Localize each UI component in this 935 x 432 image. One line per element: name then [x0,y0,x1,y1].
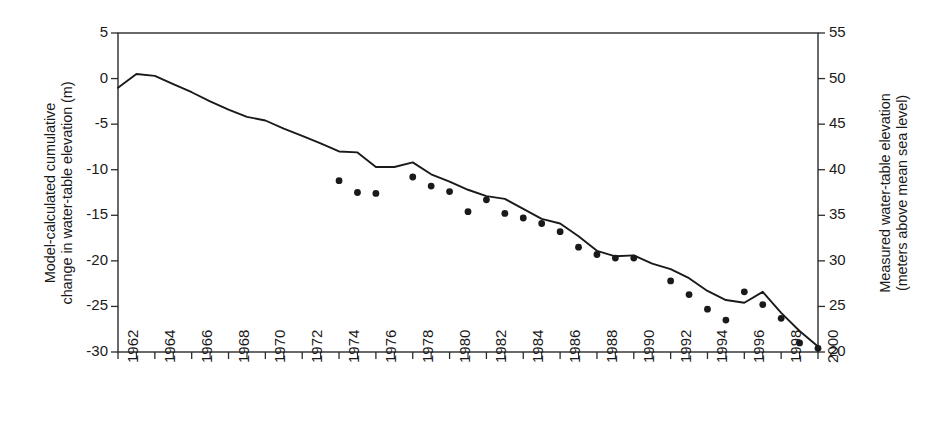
x-axis-tick-label: 2000 [824,330,841,363]
x-axis-tick-label: 1962 [124,330,141,363]
data-point [594,251,601,258]
y-axis-left-tick-label: -5 [62,114,108,131]
data-point [741,288,748,295]
plot-canvas [0,0,935,432]
data-point [686,291,693,298]
data-point [336,177,343,184]
y-axis-right-tick-label: 55 [829,23,875,40]
y-axis-left-tick-label: -15 [62,205,108,222]
y-axis-left-tick-label: -20 [62,251,108,268]
x-axis-tick-label: 1992 [677,330,694,363]
chart-figure: Model-calculated cumulative change in wa… [0,0,935,432]
series-scatter-measured [336,174,822,352]
y-axis-right-tick-label: 50 [829,69,875,86]
x-axis-tick-label: 1980 [456,330,473,363]
y-axis-right-tick-label: 30 [829,251,875,268]
data-point [612,255,619,262]
data-point [372,190,379,197]
y-axis-right-tick-label: 25 [829,296,875,313]
x-axis-tick-label: 1990 [640,330,657,363]
x-axis-tick-label: 1968 [235,330,252,363]
x-axis-tick-label: 1988 [603,330,620,363]
data-point [428,183,435,190]
data-point [704,306,711,313]
data-point [520,215,527,222]
y-axis-ticks [111,33,825,352]
y-axis-left-tick-label: 0 [62,69,108,86]
plot-frame [118,33,818,352]
data-point [483,196,490,203]
x-axis-tick-label: 1964 [161,330,178,363]
data-point [538,220,545,227]
x-axis-tick-label: 1984 [529,330,546,363]
data-point [501,210,508,217]
x-axis-tick-label: 1976 [382,330,399,363]
x-axis-tick-label: 1970 [271,330,288,363]
y-axis-left-tick-label: -10 [62,160,108,177]
data-point [557,228,564,235]
x-axis-tick-label: 1966 [198,330,215,363]
data-point [759,301,766,308]
x-axis-tick-label: 1982 [492,330,509,363]
data-point [575,244,582,251]
data-point [409,174,416,181]
y-axis-right-tick-label: 40 [829,160,875,177]
y-axis-left-tick-label: 5 [62,23,108,40]
data-point [815,345,822,352]
data-point [630,255,637,262]
data-point [465,208,472,215]
y-axis-right-tick-label: 35 [829,205,875,222]
data-point [354,189,361,196]
y-axis-left-tick-label: -25 [62,296,108,313]
x-axis-tick-label: 1996 [750,330,767,363]
y-axis-left-tick-label: -30 [62,342,108,359]
data-point [446,188,453,195]
x-axis-tick-label: 1974 [345,330,362,363]
x-axis-tick-label: 1998 [787,330,804,363]
x-axis-tick-label: 1972 [308,330,325,363]
x-axis-tick-label: 1986 [566,330,583,363]
x-axis-tick-label: 1978 [419,330,436,363]
x-axis-tick-label: 1994 [713,330,730,363]
y-axis-right-tick-label: 45 [829,114,875,131]
data-point [778,315,785,322]
data-point [722,317,729,324]
data-point [667,278,674,285]
